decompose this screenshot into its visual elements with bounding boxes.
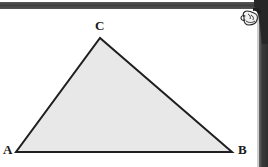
page-edge-shadow-top-icon: [0, 2, 262, 9]
vertex-label-c: C: [95, 19, 104, 32]
vertex-label-b: B: [238, 143, 247, 156]
scanned-figure-page: A B C: [0, 0, 268, 167]
pointing-hand-icon: [238, 0, 268, 44]
triangle-abc-shape: [16, 38, 232, 152]
triangle-diagram: [0, 0, 268, 167]
vertex-label-a: A: [3, 143, 12, 156]
